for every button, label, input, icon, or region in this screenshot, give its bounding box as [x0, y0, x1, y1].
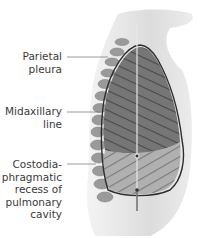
label-midaxillary-line: Midaxillary line	[5, 105, 62, 130]
label-parietal-pleura: Parietal pleura	[23, 50, 62, 75]
label-costodiaphragmatic-recess: Costodia- phragmatic recess of pulmonary…	[2, 158, 62, 221]
lung-border-marker	[135, 154, 139, 158]
pleura-border-marker	[135, 188, 139, 192]
